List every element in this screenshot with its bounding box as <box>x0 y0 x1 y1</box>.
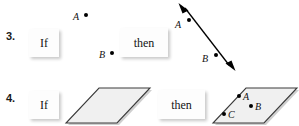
point-label-b-conclusion-4: B <box>255 102 261 112</box>
point-label-c-conclusion-4: C <box>228 110 235 120</box>
point-dot-c-conclusion-4 <box>222 112 226 116</box>
point-dot-b-conclusion-4 <box>249 104 253 108</box>
point-dot-a-conclusion-4 <box>237 94 241 98</box>
worksheet-page: 3. If A B then A B 4. If then <box>0 0 299 126</box>
point-label-a-conclusion-4: A <box>243 92 249 102</box>
